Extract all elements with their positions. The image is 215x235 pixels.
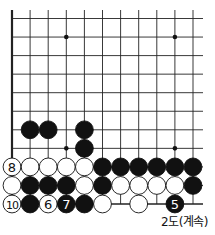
go-board-diagram: 810675 (0, 0, 215, 235)
move-number: 8 (8, 160, 16, 175)
white-stone-6: 6 (39, 195, 57, 213)
white-stone (57, 158, 75, 176)
move-number: 10 (6, 199, 19, 212)
white-stone (112, 177, 130, 195)
black-stone (166, 158, 184, 176)
black-stone (148, 158, 166, 176)
white-stone (76, 177, 94, 195)
star-point (64, 35, 69, 40)
star-point (173, 146, 178, 151)
move-number: 7 (62, 197, 70, 212)
star-point (64, 146, 69, 151)
black-stone (184, 158, 202, 176)
move-number: 5 (171, 197, 179, 212)
white-stone (76, 158, 94, 176)
white-stone (94, 195, 112, 213)
black-stone (39, 177, 57, 195)
star-point (173, 35, 178, 40)
white-stone-10: 10 (3, 195, 21, 213)
white-stone (130, 177, 148, 195)
black-stone (76, 195, 94, 213)
black-stone (21, 177, 39, 195)
black-stone (21, 195, 39, 213)
white-stone (39, 158, 57, 176)
white-stone (3, 177, 21, 195)
white-stone-8: 8 (3, 158, 21, 176)
black-stone (21, 121, 39, 139)
black-stone (184, 177, 202, 195)
black-stone (112, 158, 130, 176)
move-number: 6 (44, 197, 52, 212)
black-stone (39, 121, 57, 139)
black-stone (94, 177, 112, 195)
black-stone (57, 177, 75, 195)
white-stone (166, 177, 184, 195)
black-stone (94, 158, 112, 176)
white-stone (148, 177, 166, 195)
black-stone-7: 7 (57, 195, 75, 213)
black-stone (76, 139, 94, 157)
white-stone (21, 158, 39, 176)
diagram-caption: 2도(계속) (150, 212, 208, 229)
black-stone (76, 121, 94, 139)
black-stone (130, 158, 148, 176)
black-stone-5: 5 (166, 195, 184, 213)
white-stone (130, 195, 148, 213)
